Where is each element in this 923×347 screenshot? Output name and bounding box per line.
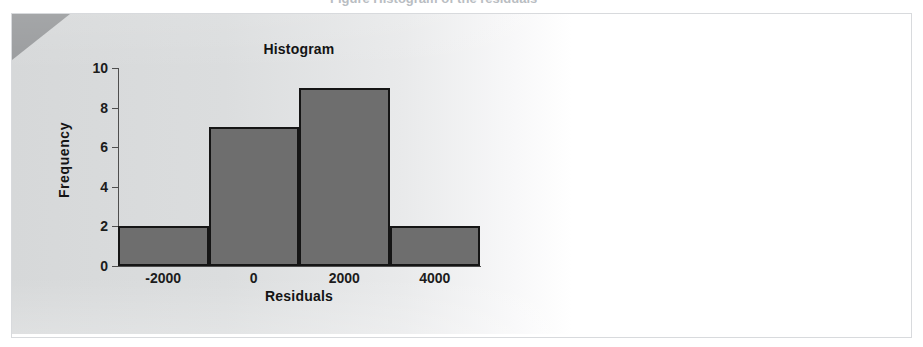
histogram-bar [299,88,390,266]
y-tick-mark [112,108,118,109]
histogram-bar [118,226,209,266]
y-tick-mark [112,147,118,148]
ghost-text-line: Figure Histogram of the residuals [330,0,537,6]
y-tick-label: 10 [72,61,108,75]
x-tick-label: 0 [219,271,289,285]
y-tick-label: 8 [72,101,108,115]
x-axis-title: Residuals [118,288,480,304]
x-tick-label: 2000 [309,271,379,285]
histogram-bar [209,127,300,266]
folded-corner-triangle [12,14,70,60]
y-axis-title-wrapper: Frequency [62,108,63,109]
plot-area: 0246810 [118,68,480,266]
y-tick-mark [112,226,118,227]
x-tick-label: -2000 [128,271,198,285]
y-tick-label: 4 [72,180,108,194]
y-axis-title: Frequency [56,100,72,220]
y-tick-label: 2 [72,219,108,233]
scan-ghost-text: Figure Histogram of the residuals [0,0,923,9]
y-tick-label: 6 [72,140,108,154]
x-axis-line [118,266,481,267]
y-tick-mark [112,266,118,267]
y-tick-mark [112,187,118,188]
histogram-bar [390,226,481,266]
x-tick-label: 4000 [400,271,470,285]
y-tick-label: 0 [72,259,108,273]
chart-title: Histogram [118,41,480,57]
y-tick-mark [112,68,118,69]
